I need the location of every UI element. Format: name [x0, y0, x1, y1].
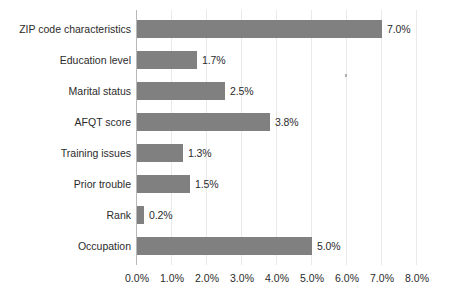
gridline: [276, 10, 277, 265]
bar-value-label: 1.7%: [202, 54, 226, 66]
bar-row: 2.5%: [137, 82, 437, 100]
bar-chart: ZIP code characteristics 7.0% Education …: [0, 0, 449, 301]
bar[interactable]: [137, 20, 382, 38]
category-label: Education level: [0, 51, 131, 69]
gridline: [416, 10, 417, 265]
gridline: [311, 10, 312, 265]
bar-value-label: 1.5%: [195, 178, 219, 190]
x-tick-label: 7.0%: [370, 272, 394, 284]
y-axis-line: [136, 10, 137, 265]
category-label: ZIP code characteristics: [0, 20, 131, 38]
bar-value-label: 5.0%: [317, 240, 341, 252]
scan-artifact: [345, 74, 347, 77]
x-tick-label: 3.0%: [230, 272, 254, 284]
category-label: Prior trouble: [0, 175, 131, 193]
bar-value-label: 1.3%: [188, 147, 212, 159]
category-label: Marital status: [0, 82, 131, 100]
bar[interactable]: [137, 175, 190, 193]
category-label: Occupation: [0, 237, 131, 255]
bar-value-label: 2.5%: [230, 85, 254, 97]
x-tick-label: 2.0%: [195, 272, 219, 284]
bar[interactable]: [137, 113, 270, 131]
gridline: [346, 10, 347, 265]
category-label: Rank: [0, 206, 131, 224]
gridline: [206, 10, 207, 265]
bar-row: 7.0%: [137, 20, 437, 38]
x-tick-label: 8.0%: [405, 272, 429, 284]
category-label: AFQT score: [0, 113, 131, 131]
category-label: Training issues: [0, 144, 131, 162]
bar-row: 3.8%: [137, 113, 437, 131]
x-tick-label: 5.0%: [300, 272, 324, 284]
bar[interactable]: [137, 51, 197, 69]
bar-row: 5.0%: [137, 237, 437, 255]
bar-row: 1.5%: [137, 175, 437, 193]
x-tick-label: 6.0%: [335, 272, 359, 284]
bar[interactable]: [137, 82, 225, 100]
gridline: [171, 10, 172, 265]
bar-row: 0.2%: [137, 206, 437, 224]
bar-value-label: 0.2%: [149, 209, 173, 221]
bar[interactable]: [137, 206, 144, 224]
x-tick-label: 4.0%: [265, 272, 289, 284]
x-tick-label: 1.0%: [160, 272, 184, 284]
bar[interactable]: [137, 144, 183, 162]
bar-row: 1.7%: [137, 51, 437, 69]
bar-value-label: 7.0%: [387, 23, 411, 35]
bar[interactable]: [137, 237, 312, 255]
bar-row: 1.3%: [137, 144, 437, 162]
x-tick-label: 0.0%: [125, 272, 149, 284]
plot-area: [136, 10, 416, 265]
gridline: [241, 10, 242, 265]
bar-value-label: 3.8%: [275, 116, 299, 128]
gridline: [381, 10, 382, 265]
